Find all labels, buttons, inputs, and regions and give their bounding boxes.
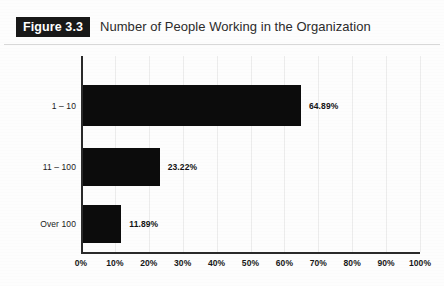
category-label: Over 100 bbox=[40, 219, 76, 229]
figure-container: Figure 3.3 Number of People Working in t… bbox=[0, 0, 444, 286]
y-axis-line bbox=[81, 56, 83, 253]
tick-label: 100% bbox=[400, 258, 440, 268]
bar bbox=[81, 85, 301, 126]
bar-chart-plot: 64.89%23.22%11.89% 1 – 1011 – 100Over 10… bbox=[0, 0, 444, 286]
bar bbox=[81, 205, 121, 243]
gridline bbox=[318, 56, 319, 252]
bar-value-label: 11.89% bbox=[129, 219, 158, 229]
bar-value-label: 64.89% bbox=[309, 101, 338, 111]
gridline bbox=[420, 56, 421, 252]
x-axis-line bbox=[81, 252, 420, 254]
gridline bbox=[386, 56, 387, 252]
bar bbox=[81, 148, 160, 186]
category-label: 11 – 100 bbox=[43, 162, 76, 172]
category-label: 1 – 10 bbox=[52, 101, 76, 111]
bar-value-label: 23.22% bbox=[168, 162, 197, 172]
gridline bbox=[352, 56, 353, 252]
